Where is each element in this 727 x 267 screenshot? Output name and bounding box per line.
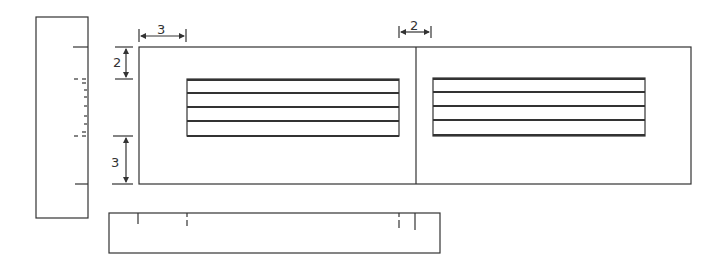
- dimension-top-margin: 2: [113, 47, 133, 79]
- dimension-left-margin: 3: [139, 22, 186, 42]
- left-panel-stripes: [187, 79, 399, 136]
- dim-label-3-top: 3: [157, 22, 165, 37]
- dimension-bottom-margin: 3: [111, 136, 133, 184]
- right-panel-stripes: [433, 78, 645, 136]
- bottom-view: [109, 213, 440, 253]
- dimension-gap: 2: [399, 18, 431, 38]
- technical-drawing: 3 2 2 3: [0, 0, 727, 267]
- main-view: [139, 47, 691, 184]
- dim-label-2-top: 2: [410, 18, 418, 33]
- side-view: [36, 17, 88, 218]
- dim-label-2-left: 2: [113, 55, 121, 70]
- dim-label-3-left: 3: [111, 155, 119, 170]
